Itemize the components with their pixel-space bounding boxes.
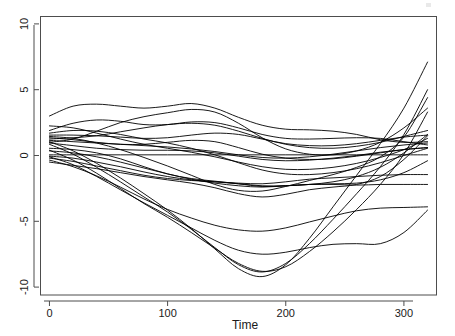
y-tick-label: 0 [18,152,30,158]
x-tick-label: 100 [158,307,176,319]
chart-figure: 0100200300 Time -10-50510 [0,0,455,336]
scan-artifact [426,3,431,7]
y-tick-label: -5 [18,216,30,226]
y-tick-label: -10 [18,279,30,295]
figure-background [0,0,455,336]
x-tick-label: 200 [277,307,295,319]
x-axis-title: Time [232,318,259,332]
x-tick-label: 0 [46,307,52,319]
y-tick-label: 10 [18,18,30,30]
y-tick-label: 5 [18,87,30,93]
x-tick-label: 300 [395,307,413,319]
